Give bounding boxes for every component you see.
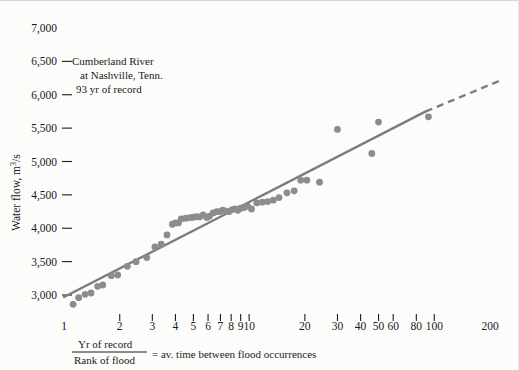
data-point: [82, 291, 89, 298]
x-axis-tick-label: 50: [373, 320, 385, 332]
data-point: [375, 119, 382, 126]
x-axis-tick-label: 2: [117, 320, 123, 332]
x-axis-tick-label: 20: [299, 320, 311, 332]
data-point: [291, 187, 298, 194]
x-axis-tick-label: 1: [61, 320, 67, 332]
y-axis-title: Water flow, m3/s: [9, 154, 23, 231]
y-axis-tick-label: 5,000: [31, 156, 57, 169]
data-point: [75, 294, 82, 301]
caption-numerator: Yr of record: [78, 338, 133, 350]
data-point: [316, 179, 323, 186]
x-axis-tick-label: 80: [411, 320, 423, 332]
annotation-line-1: Cumberland River: [72, 55, 154, 67]
data-point: [114, 272, 121, 279]
annotation-line-2: at Nashville, Tenn.: [80, 69, 163, 81]
annotation-line-3: 93 yr of record: [76, 83, 142, 95]
data-point: [284, 189, 291, 196]
x-axis-tick-label: 30: [332, 320, 344, 332]
data-point: [70, 301, 77, 308]
y-axis: 3,0003,5004,0004,5005,0005,5006,0006,500…: [31, 22, 72, 302]
chart-annotation: Cumberland Riverat Nashville, Tenn.93 yr…: [72, 55, 163, 95]
x-axis-tick-label: 10: [243, 320, 255, 332]
y-axis-tick-label: 3,000: [31, 289, 57, 302]
data-point: [152, 244, 159, 251]
x-axis-tick-label: 3: [149, 320, 155, 332]
y-axis-tick-label: 4,000: [31, 222, 57, 235]
data-point-group: [70, 113, 432, 307]
data-point: [164, 232, 171, 239]
data-point: [297, 177, 304, 184]
x-axis: 12345678910203040506080100200: [61, 314, 499, 332]
data-point: [425, 113, 432, 120]
x-axis-caption: Yr of recordRank of flood= av. time betw…: [72, 338, 316, 366]
figure-panel: 3,0003,5004,0004,5005,0005,5006,0006,500…: [0, 0, 519, 370]
x-axis-tick-label: 200: [481, 320, 499, 332]
y-axis-title-post: /s: [10, 154, 22, 162]
y-axis-tick-label: 6,000: [31, 89, 57, 102]
data-point: [124, 263, 131, 270]
y-axis-tick-label: 5,500: [31, 122, 57, 135]
y-axis-tick-label: 6,500: [31, 55, 57, 68]
x-axis-tick-label: 7: [218, 320, 224, 332]
x-axis-tick-label: 5: [191, 320, 197, 332]
data-point: [248, 205, 255, 212]
data-point: [303, 177, 310, 184]
data-point: [276, 194, 283, 201]
y-axis-tick-label: 3,500: [31, 256, 57, 269]
data-point: [158, 241, 165, 248]
data-point: [133, 258, 140, 265]
data-point: [334, 126, 341, 133]
data-point: [143, 254, 150, 261]
caption-denominator: Rank of flood: [74, 354, 136, 366]
data-point: [368, 150, 375, 157]
x-axis-tick-label: 6: [205, 320, 211, 332]
frequency-fit-line-extrapolated: [426, 80, 501, 111]
x-axis-tick-label: 8: [228, 320, 234, 332]
data-point: [108, 272, 115, 279]
x-axis-tick-label: 100: [426, 320, 444, 332]
y-axis-title-pre: Water flow, m: [10, 166, 23, 231]
data-point: [88, 290, 95, 297]
data-point: [99, 282, 106, 289]
y-axis-tick-label: 7,000: [31, 22, 57, 35]
y-axis-title-text: Water flow, m3/s: [9, 154, 23, 231]
caption-equals-text: = av. time between flood occurrences: [152, 348, 316, 360]
x-axis-tick-label: 40: [355, 320, 367, 332]
x-axis-tick-label: 60: [387, 320, 399, 332]
x-axis-tick-label: 4: [173, 320, 179, 332]
y-axis-tick-label: 4,500: [31, 189, 57, 202]
flood-frequency-chart: 3,0003,5004,0004,5005,0005,5006,0006,500…: [0, 1, 519, 370]
